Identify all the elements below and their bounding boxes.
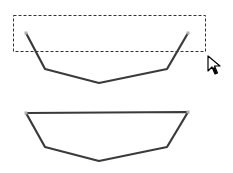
closed-path <box>26 112 188 161</box>
path-close-diagram <box>0 0 233 173</box>
open-path <box>26 33 188 83</box>
endpoint-markers <box>25 32 190 115</box>
endpoint-marker <box>187 32 190 35</box>
endpoint-marker <box>25 32 28 35</box>
endpoint-marker <box>25 112 28 115</box>
selection-marquee <box>14 16 206 52</box>
endpoint-marker <box>187 111 190 114</box>
arrow-cursor-icon <box>208 56 220 74</box>
